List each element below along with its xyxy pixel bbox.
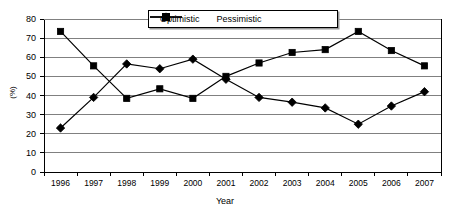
chart-legend: Optimistic Pessimistic xyxy=(148,10,338,28)
x-axis-title: Year xyxy=(0,196,450,206)
legend-marker-square-icon xyxy=(149,11,183,23)
line-chart: (%) 80706050403020100 199619971998199920… xyxy=(0,0,450,217)
plot-area xyxy=(0,0,450,217)
legend-label-pessimistic: Pessimistic xyxy=(217,14,262,24)
legend-item-pessimistic: Pessimistic xyxy=(214,14,262,24)
